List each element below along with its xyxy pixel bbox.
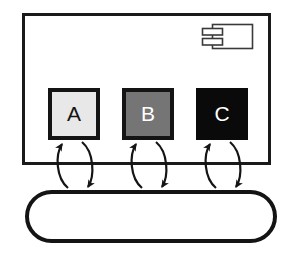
node-a[interactable]: A <box>50 90 98 138</box>
node-b-label: B <box>141 102 155 125</box>
diagram-canvas: A B C <box>0 0 289 254</box>
component-diagram: A B C <box>0 0 289 254</box>
node-c-label: C <box>214 102 229 125</box>
node-a-label: A <box>67 102 81 125</box>
bus-stadium[interactable] <box>27 192 275 241</box>
node-c[interactable]: C <box>198 90 246 138</box>
node-b[interactable]: B <box>124 90 172 138</box>
